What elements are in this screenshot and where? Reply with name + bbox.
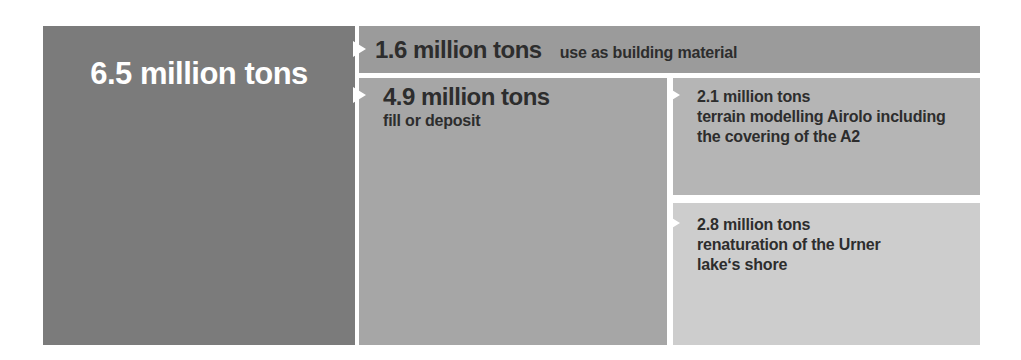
fill-or-deposit-value: 4.9 million tons [383, 82, 667, 111]
renaturation-label-line1: renaturation of the Urner [697, 235, 980, 255]
tonnage-breakdown-diagram: 6.5 million tons 1.6 million tons use as… [0, 0, 1021, 360]
arrow-right-icon-renaturation [667, 215, 680, 231]
building-material-block: 1.6 million tons use as building materia… [359, 26, 980, 73]
terrain-modelling-value: 2.1 million tons [697, 87, 980, 107]
terrain-modelling-label-line2: the covering of the A2 [697, 127, 980, 147]
renaturation-label-line2: lake‘s shore [697, 255, 980, 275]
terrain-modelling-block: 2.1 million tons terrain modelling Airol… [673, 78, 980, 195]
renaturation-block: 2.8 million tons renaturation of the Urn… [673, 203, 980, 345]
building-material-label: use as building material [560, 44, 737, 62]
renaturation-value: 2.8 million tons [697, 215, 980, 235]
arrow-right-icon-terrain [667, 87, 680, 103]
fill-or-deposit-block: 4.9 million tons fill or deposit [359, 78, 667, 345]
building-material-value: 1.6 million tons [375, 36, 542, 64]
arrow-right-icon-fill [353, 87, 366, 103]
total-block: 6.5 million tons [43, 26, 355, 345]
total-value: 6.5 million tons [43, 56, 355, 92]
arrow-right-icon-building [353, 41, 366, 57]
fill-or-deposit-label: fill or deposit [383, 111, 667, 130]
terrain-modelling-label-line1: terrain modelling Airolo including [697, 107, 980, 127]
